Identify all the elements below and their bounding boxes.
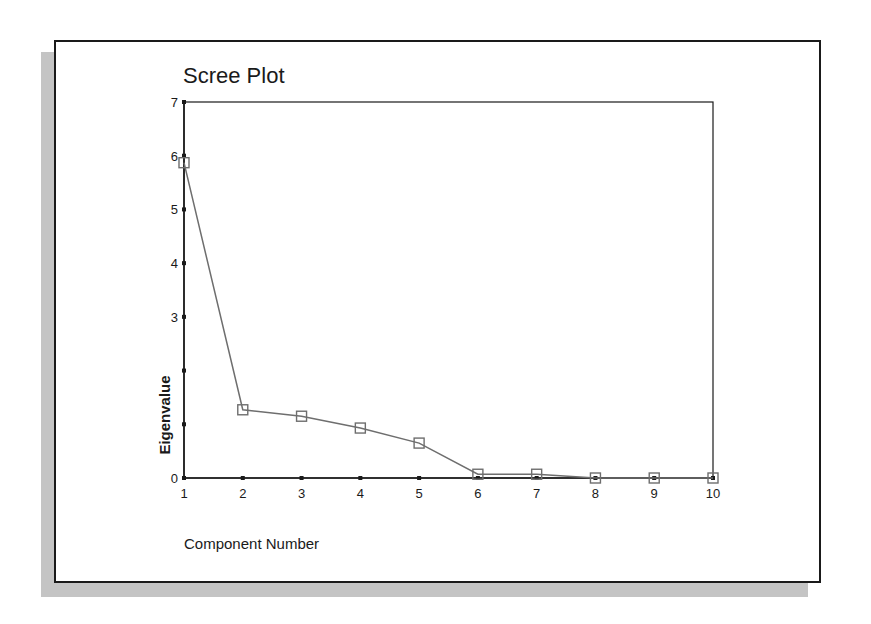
x-tick-label: 3 — [298, 486, 305, 501]
x-tick-mark — [182, 476, 186, 480]
y-tick-mark — [182, 369, 186, 373]
x-tick-label: 5 — [415, 486, 422, 501]
x-tick-label: 1 — [180, 486, 187, 501]
y-tick-mark — [182, 100, 186, 104]
x-tick-label: 7 — [533, 486, 540, 501]
y-tick-label: 4 — [171, 256, 178, 271]
x-tick-mark — [358, 476, 362, 480]
y-axis-label: Eigenvalue — [156, 375, 173, 454]
y-tick-mark — [182, 207, 186, 211]
x-tick-label: 10 — [706, 486, 720, 501]
eigenvalue-line — [184, 163, 713, 478]
x-tick-label: 6 — [474, 486, 481, 501]
y-tick-label: 6 — [171, 149, 178, 164]
plot-box — [184, 102, 713, 478]
y-tick-label: 0 — [171, 471, 178, 486]
x-tick-label: 8 — [592, 486, 599, 501]
y-tick-label: 7 — [171, 95, 178, 110]
y-tick-mark — [182, 261, 186, 265]
y-tick-label: 3 — [171, 310, 178, 325]
x-tick-mark — [300, 476, 304, 480]
y-tick-mark — [182, 315, 186, 319]
x-tick-label: 4 — [357, 486, 364, 501]
x-tick-mark — [417, 476, 421, 480]
x-tick-label: 2 — [239, 486, 246, 501]
y-tick-label: 5 — [171, 202, 178, 217]
x-tick-label: 9 — [651, 486, 658, 501]
x-axis-label: Component Number — [184, 535, 319, 553]
plot-area: 03456712345678910 — [0, 0, 871, 624]
y-tick-mark — [182, 422, 186, 426]
x-tick-mark — [241, 476, 245, 480]
